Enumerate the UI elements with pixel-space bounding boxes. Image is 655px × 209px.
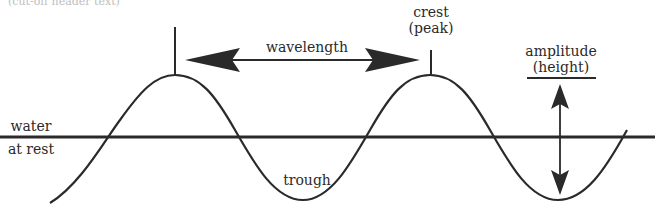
height-label: (height) [533, 59, 589, 75]
at-rest-label: at rest [8, 141, 55, 157]
header-fragment: (cut-off header text) [8, 0, 120, 8]
amplitude-label: amplitude [525, 43, 596, 59]
water-label: water [11, 118, 52, 134]
amplitude-arrow-icon [551, 84, 569, 195]
wave-diagram: (cut-off header text) wavelength crest (… [0, 0, 655, 209]
crest-label: crest [413, 4, 449, 20]
trough-label: trough [283, 172, 331, 188]
wavelength-label: wavelength [266, 39, 348, 55]
peak-label: (peak) [408, 20, 453, 36]
wave-curve [50, 75, 627, 203]
